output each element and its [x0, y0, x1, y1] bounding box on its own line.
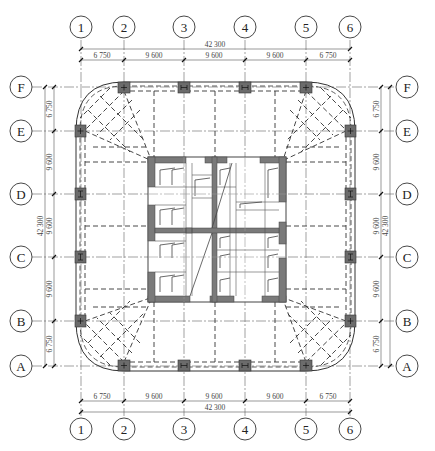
top-overall-dim: 42 300 — [205, 40, 226, 49]
left-dim-4: 9 600 — [45, 280, 54, 297]
grid-label-3-bottom: 3 — [181, 422, 188, 437]
top-dim-1: 6 750 — [94, 51, 111, 60]
grid-label-E-right: E — [403, 124, 411, 139]
bottom-dim-4: 9 600 — [267, 392, 284, 401]
grid-label-E-left: E — [17, 124, 25, 139]
grid-label-B-right: B — [403, 314, 412, 329]
grid-label-5-bottom: 5 — [303, 422, 310, 437]
bottom-dim-5: 6 750 — [320, 392, 337, 401]
grid-label-A-left: A — [16, 359, 26, 374]
right-dim-1: 6 750 — [372, 100, 381, 117]
grid-label-6-bottom: 6 — [347, 422, 354, 437]
grid-label-6-top: 6 — [347, 20, 354, 35]
bottom-dimensions: 6 750 9 600 9 600 9 600 6 750 42 300 — [94, 392, 337, 412]
bottom-dim-2: 9 600 — [146, 392, 163, 401]
grid-label-A-right: A — [402, 359, 412, 374]
grid-label-3-top: 3 — [181, 20, 188, 35]
floor-plan-drawing: 42 300 6 750 9 600 9 600 9 600 6 750 6 7… — [0, 0, 435, 451]
grid-label-D-left: D — [16, 187, 25, 202]
central-core — [148, 157, 286, 302]
grid-label-5-top: 5 — [303, 20, 310, 35]
left-dim-1: 6 750 — [45, 100, 54, 117]
right-overall-dim: 42 300 — [381, 215, 390, 236]
left-dim-5: 6 750 — [45, 335, 54, 352]
top-dimensions: 42 300 6 750 9 600 9 600 9 600 6 750 — [94, 40, 337, 60]
bottom-dim-1: 6 750 — [94, 392, 111, 401]
top-dim-4: 9 600 — [267, 51, 284, 60]
grid-label-4-bottom: 4 — [242, 422, 249, 437]
grid-label-F-right: F — [403, 80, 410, 95]
grid-label-D-right: D — [402, 187, 411, 202]
grid-label-B-left: B — [17, 314, 26, 329]
grid-label-C-right: C — [403, 250, 412, 265]
grid-bubbles-left — [10, 76, 32, 377]
left-overall-dim: 42 300 — [36, 215, 45, 236]
bottom-overall-dim: 42 300 — [205, 403, 226, 412]
bottom-dim-3: 9 600 — [206, 392, 223, 401]
left-dim-2: 9 600 — [45, 153, 54, 170]
grid-label-F-left: F — [17, 80, 24, 95]
top-dim-5: 6 750 — [320, 51, 337, 60]
right-dim-4: 9 600 — [372, 280, 381, 297]
top-dim-2: 9 600 — [146, 51, 163, 60]
grid-label-4-top: 4 — [242, 20, 249, 35]
top-dim-3: 9 600 — [206, 51, 223, 60]
grid-label-2-bottom: 2 — [121, 422, 128, 437]
grid-bubbles-bottom — [70, 418, 361, 440]
grid-bubbles-top — [70, 16, 361, 38]
right-dim-2: 9 600 — [372, 153, 381, 170]
right-dim-5: 6 750 — [372, 335, 381, 352]
grid-bubbles-right — [396, 76, 418, 377]
right-dim-3: 9 600 — [372, 217, 381, 234]
grid-label-1-top: 1 — [78, 20, 85, 35]
grid-label-1-bottom: 1 — [78, 422, 85, 437]
grid-label-2-top: 2 — [121, 20, 128, 35]
grid-label-C-left: C — [17, 250, 26, 265]
left-dim-3: 9 600 — [45, 217, 54, 234]
